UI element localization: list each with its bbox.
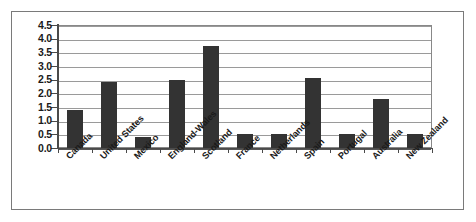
x-axis-category-label: Scotland xyxy=(200,127,234,161)
x-axis-category-labels: CanadaUnited StatesMexicoEngland-WalesSc… xyxy=(0,0,476,222)
x-axis-category-label: Spain xyxy=(302,137,326,161)
x-axis-category-label: Portugal xyxy=(336,128,369,161)
figure: 0.00.51.01.52.02.53.03.54.04.5 CanadaUni… xyxy=(0,0,476,222)
x-axis-category-label: New Zealand xyxy=(404,115,450,161)
x-axis-category-label: Mexico xyxy=(132,132,161,161)
x-axis-category-label: Canada xyxy=(64,131,94,161)
x-axis-category-label: Australia xyxy=(370,127,404,161)
x-axis-category-label: France xyxy=(234,133,262,161)
